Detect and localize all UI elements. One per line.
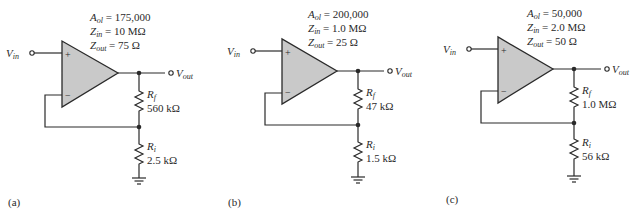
- rf-value: 1.0 MΩ: [582, 98, 616, 110]
- caption-a: (a): [8, 196, 21, 209]
- zin-label: Zin = 10 MΩ: [90, 25, 146, 39]
- noninverting-input-mark: +: [501, 45, 507, 56]
- zin-label: Zin = 2.0 MΩ: [527, 21, 586, 35]
- inverting-input-mark: −: [285, 87, 291, 98]
- caption-c: (c): [446, 193, 459, 206]
- inverting-input-mark: −: [501, 86, 507, 97]
- vin-label: Vin: [443, 43, 456, 57]
- circuit-c: Aol = 50,000 Zin = 2.0 MΩ Zout = 50 Ω Vi…: [443, 7, 630, 206]
- zin-label: Zin = 1.0 MΩ: [308, 22, 367, 36]
- vout-terminal: [388, 69, 392, 73]
- noninverting-input-mark: +: [65, 49, 71, 60]
- vout-terminal: [169, 71, 173, 75]
- vin-terminal: [251, 49, 255, 53]
- noninverting-input-mark: +: [285, 47, 291, 58]
- ri-value: 56 kΩ: [582, 150, 609, 162]
- zout-label: Zout = 75 Ω: [90, 39, 140, 53]
- vin-label: Vin: [6, 47, 19, 61]
- ri-resistor: [354, 125, 362, 177]
- caption-b: (b): [228, 196, 241, 209]
- noninverting-amplifier-diagrams: Aol = 175,000 Zin = 10 MΩ Zout = 75 Ω Vi…: [0, 0, 641, 221]
- rf-value: 47 kΩ: [366, 100, 393, 112]
- vout-label: Vout: [612, 63, 630, 77]
- rf-label: Rf: [365, 86, 377, 100]
- ri-label: Ri: [146, 140, 156, 154]
- vout-label: Vout: [176, 67, 194, 81]
- rf-value: 560 kΩ: [147, 102, 180, 114]
- feedback-wire: [265, 93, 358, 125]
- zout-label: Zout = 50 Ω: [527, 35, 577, 49]
- vin-terminal: [30, 51, 34, 55]
- ground-icon: [351, 177, 365, 183]
- inverting-input-mark: −: [65, 90, 71, 101]
- ri-value: 2.5 kΩ: [147, 154, 177, 166]
- rf-label: Rf: [146, 88, 158, 102]
- ground-icon: [567, 176, 581, 182]
- ri-resistor: [570, 123, 578, 176]
- ri-label: Ri: [365, 138, 375, 152]
- aol-label: Aol = 175,000: [89, 11, 151, 25]
- aol-label: Aol = 200,000: [307, 8, 369, 22]
- circuit-a: Aol = 175,000 Zin = 10 MΩ Zout = 75 Ω Vi…: [6, 11, 194, 209]
- vin-terminal: [467, 47, 471, 51]
- vin-label: Vin: [227, 45, 240, 59]
- feedback-wire: [481, 91, 574, 123]
- rf-resistor: [570, 69, 578, 123]
- vout-terminal: [605, 67, 609, 71]
- rf-resistor: [354, 71, 362, 125]
- aol-label: Aol = 50,000: [526, 7, 582, 21]
- ground-icon: [132, 178, 146, 184]
- ri-value: 1.5 kΩ: [366, 152, 396, 164]
- vout-label: Vout: [395, 65, 413, 79]
- ri-resistor: [135, 127, 143, 178]
- rf-resistor: [135, 73, 143, 127]
- circuit-b: Aol = 200,000 Zin = 1.0 MΩ Zout = 25 Ω V…: [227, 8, 413, 209]
- ri-label: Ri: [581, 136, 591, 150]
- feedback-wire: [45, 95, 139, 127]
- rf-label: Rf: [581, 84, 593, 98]
- zout-label: Zout = 25 Ω: [308, 36, 358, 50]
